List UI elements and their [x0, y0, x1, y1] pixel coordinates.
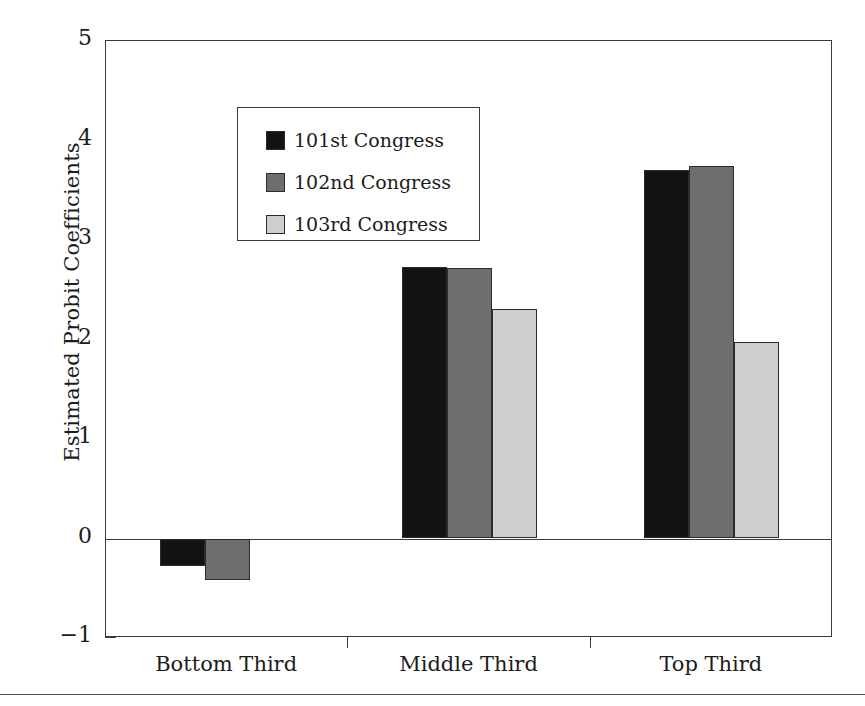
- x-axis-label-bottom-third: Bottom Third: [106, 652, 346, 676]
- bar-bottom-third-series-0: [160, 539, 205, 567]
- footer-divider: [0, 694, 865, 695]
- y-tick-label-3: 3: [30, 226, 92, 248]
- legend-label-101st: 101st Congress: [294, 129, 444, 151]
- bar-middle-third-series-1: [447, 268, 492, 539]
- legend: 101st Congress 102nd Congress 103rd Cong…: [237, 107, 480, 241]
- y-tick-label-0: 0: [30, 525, 92, 547]
- y-tick-label-5: 5: [30, 27, 92, 49]
- probit-coefficients-bar-chart: Estimated Probit Coefficients 543210−1 1…: [0, 0, 865, 706]
- x-tick-1: [347, 637, 348, 648]
- y-tick-label-4: 4: [30, 127, 92, 149]
- series-0-swatch-icon: [266, 131, 285, 150]
- plot-area: 101st Congress 102nd Congress 103rd Cong…: [105, 40, 832, 637]
- bar-top-third-series-0: [644, 170, 689, 538]
- legend-item-103rd: 103rd Congress: [266, 206, 479, 242]
- legend-label-102nd: 102nd Congress: [294, 171, 451, 193]
- x-axis-label-top-third: Top Third: [591, 652, 831, 676]
- bar-middle-third-series-0: [402, 267, 447, 539]
- y-tick-label-1: 1: [30, 425, 92, 447]
- series-2-swatch-icon: [266, 215, 285, 234]
- y-tick-label-neg1: −1: [30, 624, 92, 646]
- x-tick-2: [590, 637, 591, 648]
- bar-middle-third-series-2: [492, 309, 537, 539]
- legend-label-103rd: 103rd Congress: [294, 213, 448, 235]
- legend-item-101st: 101st Congress: [266, 122, 479, 158]
- x-axis-label-middle-third: Middle Third: [349, 652, 589, 676]
- series-1-swatch-icon: [266, 173, 285, 192]
- y-tick-label-2: 2: [30, 326, 92, 348]
- y-tick-neg1: [105, 637, 116, 638]
- legend-item-102nd: 102nd Congress: [266, 164, 479, 200]
- bar-top-third-series-2: [734, 342, 779, 538]
- bar-bottom-third-series-1: [205, 539, 250, 581]
- bar-top-third-series-1: [689, 166, 734, 538]
